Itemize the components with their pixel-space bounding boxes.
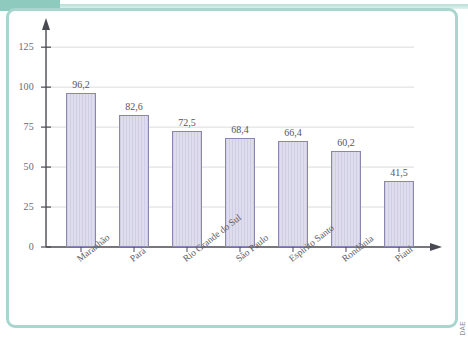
bar-value-label: 96,2: [59, 79, 103, 90]
bar: [331, 151, 361, 247]
y-tick-label: 125: [4, 41, 34, 52]
bar-value-label: 72,5: [165, 117, 209, 128]
figure-root: 0255075100125 96,282,672,568,466,460,241…: [0, 0, 468, 342]
bar-value-label: 41,5: [377, 167, 421, 178]
y-tick-label: 0: [4, 241, 34, 252]
y-tick-label: 100: [4, 81, 34, 92]
bar-value-label: 82,6: [112, 101, 156, 112]
bar: [66, 93, 96, 247]
bar: [278, 141, 308, 247]
bar-value-label: 66,4: [271, 127, 315, 138]
bar: [172, 131, 202, 247]
y-tick-label: 75: [4, 121, 34, 132]
top-band-notch: [60, 0, 468, 4]
y-tick-label: 50: [4, 161, 34, 172]
bar-value-label: 68,4: [218, 124, 262, 135]
bar: [384, 181, 414, 247]
credit-text: DAE: [459, 321, 466, 336]
bar-value-label: 60,2: [324, 137, 368, 148]
bar: [119, 115, 149, 247]
y-tick-label: 25: [4, 201, 34, 212]
